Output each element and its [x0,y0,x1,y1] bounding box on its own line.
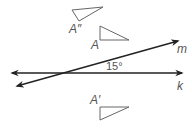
line-m-label: m [177,42,187,56]
angle-label: 15° [106,60,123,72]
reflection-diagram: m k 15° A″ A A′ [0,0,192,131]
triangle-a-prime-label: A′ [89,93,101,107]
line-k-label: k [177,79,184,93]
triangle-a-label: A [90,38,99,52]
triangle-a-prime [100,107,129,120]
triangle-a-double-prime-label: A″ [68,22,82,36]
triangle-a-double-prime [72,7,103,21]
triangle-a [100,26,129,40]
